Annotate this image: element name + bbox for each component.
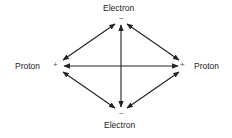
arrow-left-bottom: [63, 72, 115, 108]
top-electron-sign: −: [119, 15, 124, 23]
right-proton-label: Proton: [194, 61, 219, 71]
top-electron-label: Electron: [103, 3, 134, 13]
bottom-electron-sign: −: [119, 110, 124, 118]
arrow-top-left: [63, 24, 115, 60]
right-proton-sign: +: [180, 61, 185, 69]
arrow-right-bottom: [127, 72, 179, 108]
left-proton-sign: +: [53, 61, 58, 69]
left-proton-label: Proton: [15, 61, 40, 71]
arrow-top-right: [127, 24, 179, 60]
bottom-electron-label: Electron: [104, 120, 135, 130]
